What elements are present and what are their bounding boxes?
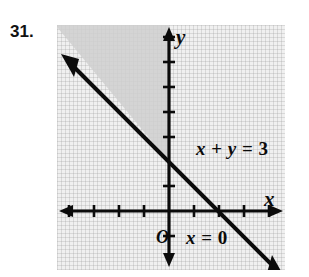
vertical-constraint-value: 0: [218, 227, 228, 248]
origin-label: O: [156, 228, 169, 246]
problem-number-label: 31.: [10, 23, 34, 40]
shaded-region-path: [57, 25, 169, 162]
line-equation-value: 3: [259, 138, 269, 159]
line-equation-x: x: [196, 138, 206, 159]
vertical-constraint-label: x = 0: [186, 228, 228, 247]
x-axis: [59, 205, 283, 217]
x-axis-label: x: [264, 189, 275, 210]
vertical-constraint-x: x: [186, 227, 196, 248]
y-axis-bottom-arrowhead: [163, 253, 175, 267]
vertical-constraint-equals: =: [201, 227, 212, 248]
graph-figure: 31.: [0, 0, 309, 277]
line-equation-plus: +: [211, 138, 222, 159]
x-axis-left-arrowhead: [59, 205, 73, 217]
y-axis-label: y: [176, 27, 185, 48]
line-equation-equals: =: [242, 138, 253, 159]
line-equation-y: y: [228, 138, 237, 159]
line-equation-label: x + y = 3: [196, 139, 269, 158]
